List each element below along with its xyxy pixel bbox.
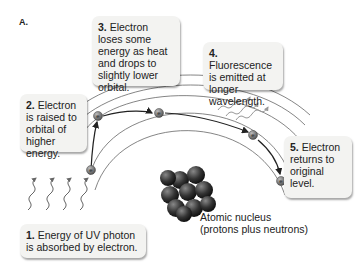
step-3-callout: 3. Electron loses some energy as heat an… bbox=[92, 16, 180, 86]
step-number: 4. bbox=[209, 47, 218, 59]
step-number: 5. bbox=[290, 141, 299, 153]
electron-icon: e bbox=[87, 166, 96, 175]
electron-icon: e bbox=[94, 112, 103, 121]
step-number: 3. bbox=[98, 21, 107, 33]
step-number: 1. bbox=[26, 229, 35, 241]
nucleus-label-line1: Atomic nucleus bbox=[200, 211, 308, 223]
nucleus-label: Atomic nucleus (protons plus neutrons) bbox=[200, 211, 308, 235]
step-number: 2. bbox=[26, 99, 35, 111]
step-2-callout: 2. Electron is raised to orbital of high… bbox=[20, 94, 87, 152]
uv-photon-waves-icon bbox=[28, 178, 88, 210]
electron-icon: e bbox=[249, 131, 258, 140]
step-4-callout: 4. Fluorescence is emitted at longer wav… bbox=[203, 42, 283, 90]
step-text: Electron loses some energy as heat and d… bbox=[98, 21, 167, 93]
step-1-callout: 1. Energy of UV photon is absorbed by el… bbox=[20, 224, 146, 258]
transition-arrows bbox=[91, 111, 280, 174]
step-text: Energy of UV photon is absorbed by elect… bbox=[26, 229, 137, 253]
step-text: Fluorescence is emitted at longer wavele… bbox=[209, 59, 272, 107]
step-5-callout: 5. Electron returns to original level. bbox=[284, 136, 352, 198]
nucleus-label-line2: (protons plus neutrons) bbox=[200, 223, 308, 235]
electron-icon: e bbox=[155, 109, 164, 118]
